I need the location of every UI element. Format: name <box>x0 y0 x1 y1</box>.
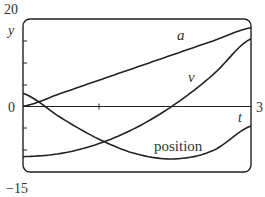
x-axis-label: t <box>238 110 243 125</box>
y-min-label: −15 <box>6 181 28 196</box>
series-position-label: position <box>154 138 203 154</box>
series-a-line <box>23 28 251 107</box>
series-position-line <box>23 93 251 159</box>
series-a-label: a <box>177 27 185 43</box>
motion-chart: 20 y 0 −15 3 t a v position <box>0 0 265 197</box>
y-axis-label: y <box>6 23 15 38</box>
y-max-label: 20 <box>4 2 18 17</box>
series-v-line <box>23 39 251 157</box>
series-v-label: v <box>188 69 195 85</box>
y-zero-label: 0 <box>8 100 15 115</box>
x-max-label: 3 <box>256 100 263 115</box>
